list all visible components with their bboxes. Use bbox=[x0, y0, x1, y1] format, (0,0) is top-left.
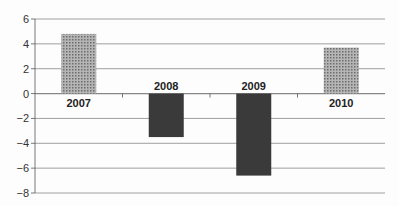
y-axis: 6420−2−4−6−8 bbox=[16, 13, 35, 199]
category-label: 2008 bbox=[154, 80, 178, 92]
bar-2007 bbox=[61, 34, 96, 94]
y-tick-label: 4 bbox=[23, 38, 29, 50]
y-tick-label: −2 bbox=[16, 112, 29, 124]
y-tick-label: 0 bbox=[23, 88, 29, 100]
bar-2009 bbox=[236, 94, 271, 176]
bar-2008 bbox=[149, 94, 184, 138]
category-label: 2010 bbox=[329, 97, 353, 109]
y-tick-label: −8 bbox=[16, 187, 29, 199]
bar-2010 bbox=[324, 48, 359, 94]
bar-chart: 6420−2−4−6−8 2007200820092010 bbox=[0, 0, 399, 206]
category-label: 2007 bbox=[67, 97, 91, 109]
y-tick-label: −4 bbox=[16, 137, 29, 149]
y-tick-label: −6 bbox=[16, 162, 29, 174]
y-tick-label: 6 bbox=[23, 13, 29, 25]
y-tick-label: 2 bbox=[23, 63, 29, 75]
bars bbox=[61, 34, 359, 176]
category-label: 2009 bbox=[242, 80, 266, 92]
